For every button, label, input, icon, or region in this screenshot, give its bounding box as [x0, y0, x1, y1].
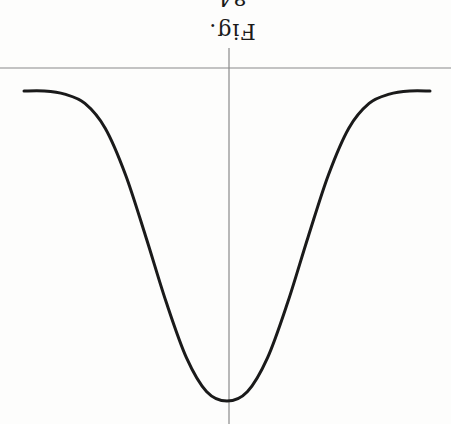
- figure-caption: Fig. 84: [192, 14, 272, 48]
- plot-area: [0, 0, 451, 424]
- figure: Fig. 84: [0, 0, 451, 424]
- bell-curve: [24, 91, 430, 401]
